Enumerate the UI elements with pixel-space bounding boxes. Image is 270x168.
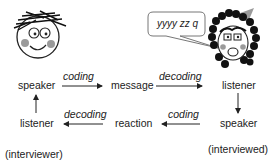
edge-label-coding-bottom: coding <box>168 108 199 120</box>
node-speaker-top: speaker <box>18 79 55 91</box>
role-interviewer: (interviewer) <box>5 148 63 160</box>
interviewer-face-icon <box>14 11 66 58</box>
node-reaction: reaction <box>115 117 152 129</box>
interviewed-face-icon <box>208 8 260 68</box>
communication-diagram: yyyy zz q speaker coding message decodin… <box>0 0 270 168</box>
node-listener-top: listener <box>222 79 256 91</box>
edge-label-decoding-bottom: decoding <box>64 108 107 120</box>
edge-label-decoding-top: decoding <box>159 70 202 82</box>
speech-bubble-text: yyyy zz q <box>157 18 198 30</box>
edge-label-coding-top: coding <box>63 70 94 82</box>
node-listener-bottom: listener <box>20 117 54 129</box>
node-message: message <box>111 79 154 91</box>
node-speaker-bottom: speaker <box>220 117 257 129</box>
role-interviewed: (interviewed) <box>208 143 268 155</box>
